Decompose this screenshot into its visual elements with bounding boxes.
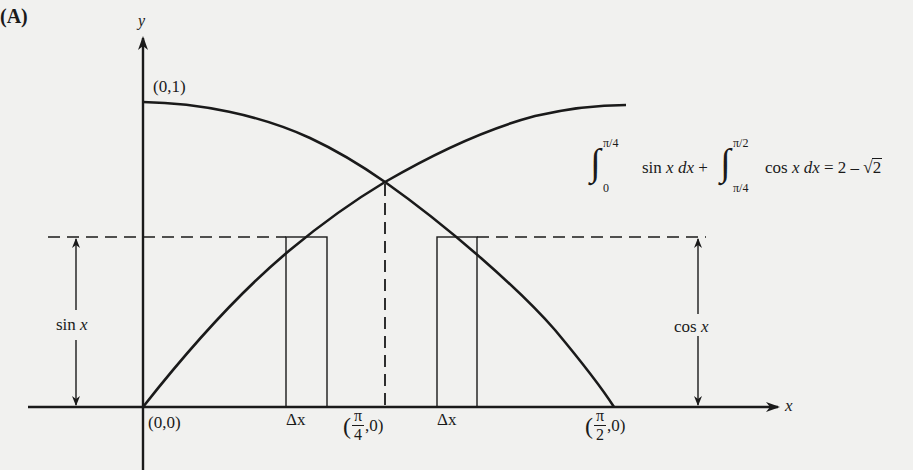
point-label-pi-over-4: (π4,0) (343, 408, 384, 443)
cos-curve (143, 102, 614, 407)
point-label-0-1: (0,1) (153, 78, 186, 95)
integral-sign-2: ∫ (720, 140, 730, 184)
open-paren: ( (585, 413, 593, 439)
right-strip-rectangle (437, 237, 477, 407)
numerator: π (594, 408, 606, 426)
int2-integrand: cos x dx = 2 – √2 (765, 158, 882, 178)
integrand-fn: cos (765, 158, 788, 177)
int1-integrand: sin x dx + (642, 158, 708, 178)
panel-label: (A) (0, 6, 28, 26)
cos-x-height-label: cos x (674, 318, 708, 335)
integral-sign-1: ∫ (590, 140, 600, 184)
point-label-pi-over-2: (π2,0) (585, 408, 626, 443)
differential: dx (678, 158, 694, 177)
numerator: π (352, 408, 364, 426)
integrand-var: x (666, 158, 674, 177)
fraction: π2 (594, 408, 606, 443)
area-between-sin-cos-diagram (0, 0, 913, 470)
int1-lower-limit: 0 (603, 181, 609, 196)
left-strip-rectangle (286, 237, 327, 407)
y-axis-label: y (138, 13, 145, 29)
x-axis-label: x (785, 397, 793, 414)
integrand-fn: sin (642, 158, 662, 177)
delta-x-text: Δx (286, 410, 305, 429)
differential: dx (804, 158, 820, 177)
delta-x-label-right: Δx (437, 411, 456, 428)
int1-upper-limit: π/4 (603, 136, 618, 151)
fraction: π4 (352, 408, 364, 443)
equals-result: = 2 – (824, 158, 859, 177)
sin-x-height-label: sin x (56, 316, 88, 333)
int2-upper-limit: π/2 (733, 136, 748, 151)
fn-var: x (80, 315, 88, 334)
open-paren: ( (343, 413, 351, 439)
int2-lower-limit: π/4 (733, 181, 748, 196)
sqrt-expression: √2 (863, 158, 882, 177)
delta-x-text: Δx (437, 410, 456, 429)
integrand-var: x (792, 158, 800, 177)
denominator: 4 (352, 426, 364, 443)
plus-sign: + (698, 158, 708, 177)
fn-var: x (701, 317, 709, 336)
fn-name: sin (56, 315, 76, 334)
close-paren: ,0) (607, 416, 625, 435)
point-label-origin: (0,0) (148, 414, 181, 431)
delta-x-label-left: Δx (286, 411, 305, 428)
close-paren: ,0) (365, 416, 383, 435)
denominator: 2 (594, 426, 606, 443)
sqrt-argument: 2 (872, 158, 883, 177)
fn-name: cos (674, 317, 697, 336)
